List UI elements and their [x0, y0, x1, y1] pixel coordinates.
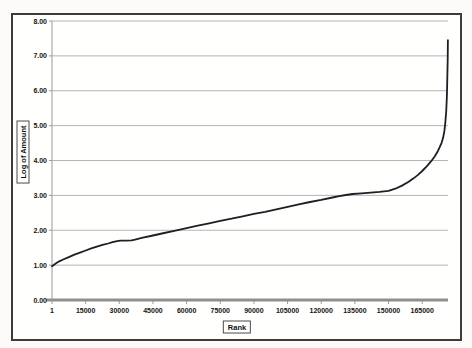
y-tick-label: 3.00 — [33, 192, 47, 199]
x-tick-label: 60000 — [177, 307, 197, 314]
chart-frame: 0.001.002.003.004.005.006.007.008.001150… — [11, 13, 462, 341]
y-tick-label: 0.00 — [33, 297, 47, 304]
x-tick-label: 15000 — [76, 307, 96, 314]
x-tick-label: 135000 — [343, 307, 366, 314]
y-tick-label: 7.00 — [33, 52, 47, 59]
plot-area: 0.001.002.003.004.005.006.007.008.001150… — [13, 15, 460, 339]
x-tick-label: 105000 — [276, 307, 299, 314]
x-tick-label: 165000 — [411, 307, 434, 314]
x-tick-label: 45000 — [143, 307, 163, 314]
y-tick-label: 5.00 — [33, 122, 47, 129]
y-tick-label: 4.00 — [33, 157, 47, 164]
y-tick-label: 8.00 — [33, 18, 47, 25]
x-tick-label: 75000 — [211, 307, 231, 314]
x-tick-label: 90000 — [244, 307, 264, 314]
chart-page: 0.001.002.003.004.005.006.007.008.001150… — [0, 0, 472, 348]
y-tick-label: 1.00 — [33, 262, 47, 269]
y-tick-label: 6.00 — [33, 87, 47, 94]
x-tick-label: 150000 — [377, 307, 400, 314]
x-tick-label: 1 — [50, 307, 54, 314]
x-tick-label: 30000 — [110, 307, 130, 314]
y-axis-title: Log of Amount — [17, 120, 30, 183]
y-tick-label: 2.00 — [33, 227, 47, 234]
x-axis-title: Rank — [223, 321, 251, 334]
data-series-line — [52, 40, 448, 266]
x-tick-label: 120000 — [310, 307, 333, 314]
